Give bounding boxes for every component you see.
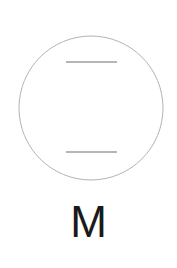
outer-circle-icon (19, 36, 163, 180)
symbol-caption: M (0, 200, 177, 244)
figure-canvas: M (0, 0, 177, 268)
